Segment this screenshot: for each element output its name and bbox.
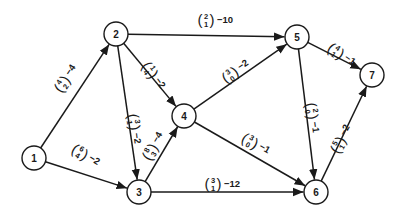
edge-label-5-6: (20)−1	[302, 101, 324, 134]
edge-2-to-5	[128, 34, 285, 37]
node-2: 2	[104, 22, 128, 46]
node-6: 6	[304, 180, 328, 204]
label-cost-value: −1	[310, 121, 323, 134]
left-paren: (	[198, 11, 203, 28]
node-7: 7	[360, 63, 384, 87]
node-3: 3	[127, 180, 151, 204]
node-5: 5	[285, 25, 309, 49]
edge-label-1-2: (42)−4	[50, 60, 82, 96]
node-label: 4	[181, 111, 187, 122]
node-label: 1	[31, 153, 37, 164]
label-cost-value: −2	[337, 122, 352, 137]
node-label: 2	[113, 29, 119, 40]
node-label: 3	[136, 187, 142, 198]
edge-1-to-3	[45, 162, 127, 188]
edge-1-to-2	[41, 44, 109, 148]
node-label: 5	[294, 32, 300, 43]
edge-label-3-6: (31)−12	[205, 175, 241, 193]
label-bottom-value: 0	[303, 109, 312, 114]
label-cost-value: −2	[131, 132, 143, 144]
label-cost-value: −2	[235, 57, 250, 72]
edge-label-4-6: (30)−1	[238, 129, 274, 160]
label-cost-value: −2	[87, 152, 102, 167]
label-cost-value: −2	[153, 75, 168, 90]
node-4: 4	[172, 104, 196, 128]
label-cost-value: −4	[62, 61, 78, 77]
edge-label-2-5: (21)−10	[198, 11, 234, 29]
node-label: 6	[313, 187, 319, 198]
label-bottom-value: 1	[211, 184, 215, 193]
right-paren: )	[305, 113, 323, 120]
label-cost-value: −10	[217, 14, 233, 25]
right-paren: )	[217, 175, 222, 192]
label-cost-value: −12	[224, 178, 240, 189]
edge-label-2-3: (31)−2	[124, 112, 146, 144]
label-bottom-value: 1	[204, 20, 208, 29]
node-1: 1	[22, 146, 46, 170]
right-paren: )	[210, 11, 215, 28]
label-cost-value: −4	[149, 129, 164, 145]
label-bottom-value: 1	[125, 120, 134, 125]
node-label: 7	[369, 70, 375, 81]
label-cost-value: −1	[343, 52, 359, 68]
edge-label-6-7: (51)−2	[326, 121, 356, 156]
edge-label-2-4: (14)−2	[138, 58, 170, 93]
right-paren: )	[126, 124, 143, 131]
left-paren: (	[205, 175, 210, 192]
label-cost-value: −1	[258, 140, 274, 155]
network-diagram: (42)−4(64)−2(21)−10(14)−2(31)−2(83)−4(30…	[0, 0, 408, 220]
edge-label-1-3: (64)−2	[68, 140, 103, 171]
